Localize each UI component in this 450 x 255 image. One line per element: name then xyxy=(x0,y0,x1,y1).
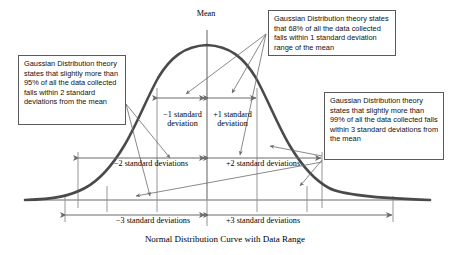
callout-95-percent: Gaussian Distribution theory states that… xyxy=(18,55,126,125)
callout-68-percent: Gaussian Distribution theory states that… xyxy=(268,10,396,56)
normal-distribution-figure: Gaussian Distribution theory states that… xyxy=(0,0,450,255)
plus-one-sigma-label: +1 standard deviation xyxy=(208,110,257,129)
plus-three-sigma-label: +3 standard deviations xyxy=(210,216,316,225)
minus-one-sigma-label: −1 standard deviation xyxy=(158,110,207,129)
figure-caption: Normal Distribution Curve with Data Rang… xyxy=(75,234,375,244)
mean-label: Mean xyxy=(176,9,236,18)
minus-two-sigma-label: −2 standard deviations xyxy=(98,159,204,168)
callout-99-percent: Gaussian Distribution theory states that… xyxy=(324,92,444,160)
minus-three-sigma-label: −3 standard deviations xyxy=(100,216,206,225)
leader-lines-68 xyxy=(186,34,266,155)
plus-two-sigma-label: +2 standard deviations xyxy=(210,159,316,168)
